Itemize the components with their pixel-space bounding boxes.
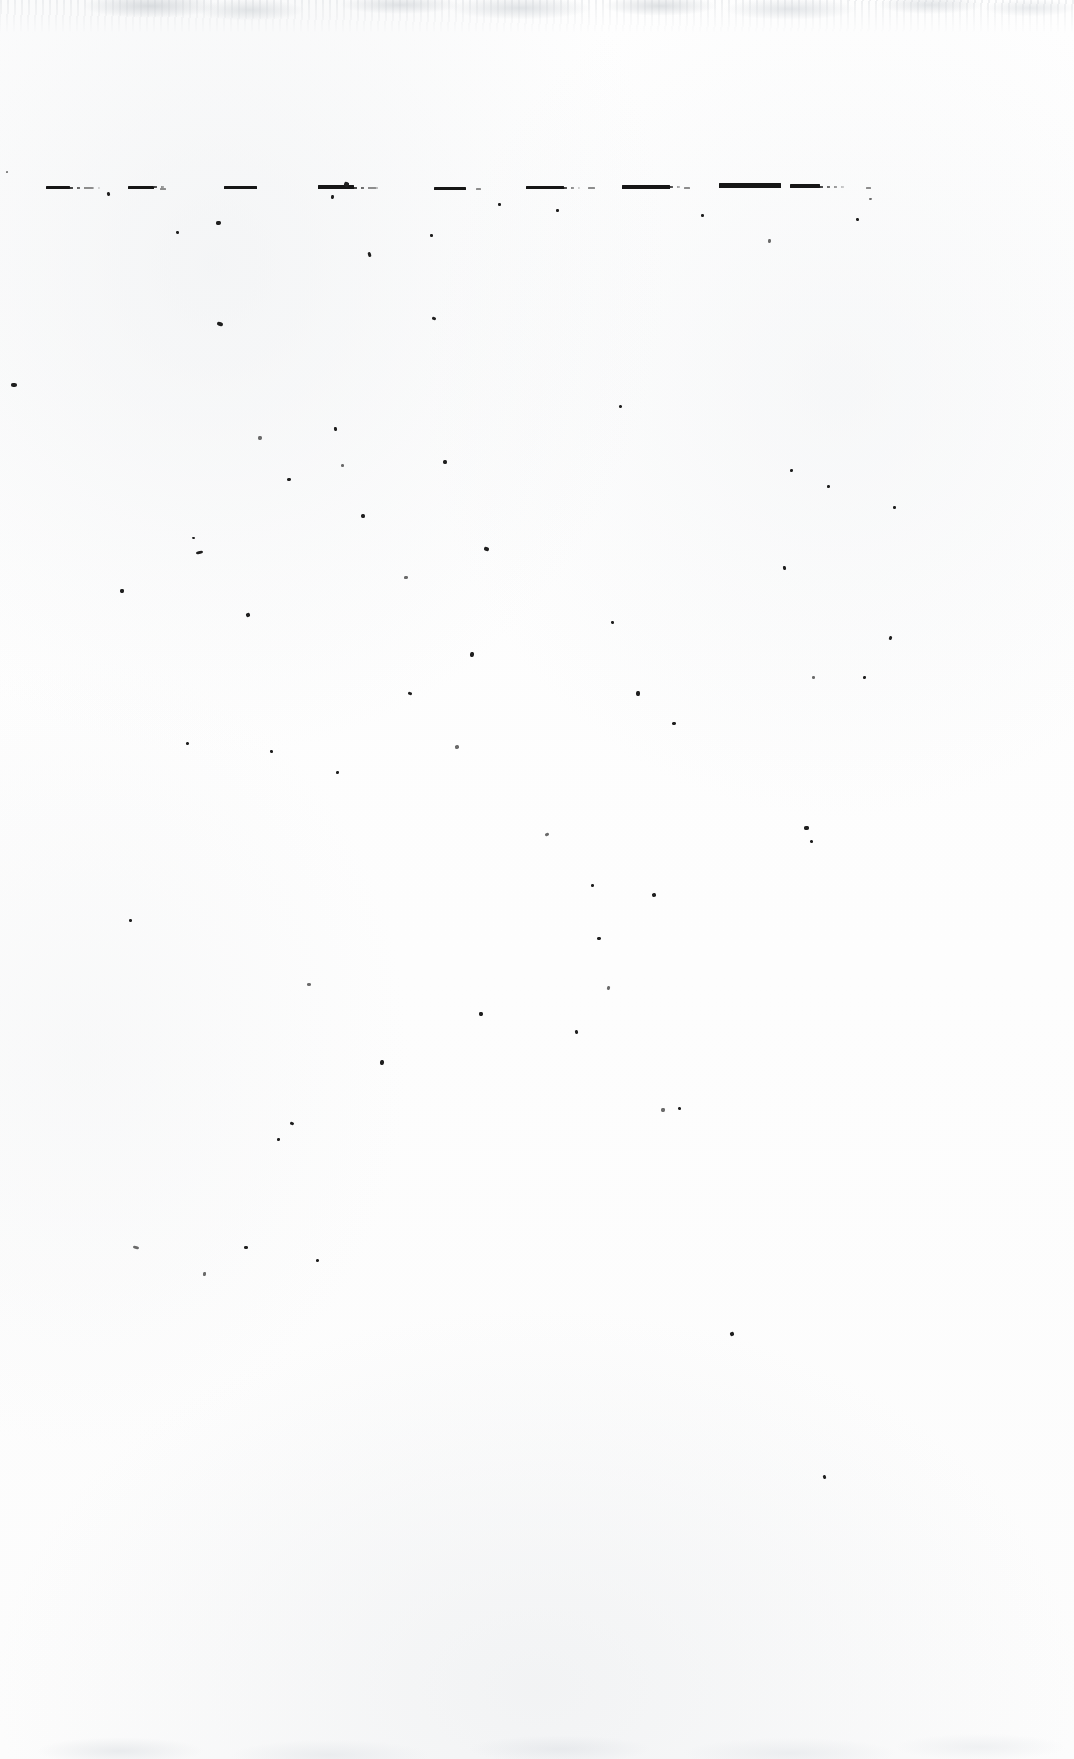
ink-speck: [341, 464, 344, 467]
ink-speck: [192, 537, 195, 539]
ink-speck: [258, 436, 262, 440]
ink-speck: [812, 676, 815, 679]
scanned-page: [0, 0, 1074, 1759]
ink-speck: [334, 427, 338, 431]
ink-speck: [804, 826, 809, 831]
ink-speck: [768, 239, 771, 243]
ink-speck: [636, 691, 640, 696]
ink-speck: [408, 692, 413, 696]
ink-speck: [893, 506, 896, 509]
ink-speck: [701, 214, 704, 217]
ink-speck: [498, 203, 501, 206]
ink-speck: [556, 209, 559, 212]
ink-speck: [11, 383, 17, 387]
ink-speck: [575, 1030, 579, 1035]
ink-speck: [244, 1246, 248, 1249]
ink-speck: [827, 485, 830, 488]
ink-speck: [430, 234, 433, 237]
ink-speck: [591, 884, 594, 887]
ink-speck: [783, 566, 787, 571]
ink-speck: [176, 231, 179, 234]
ink-speck: [307, 983, 311, 986]
paper-background: [0, 0, 1074, 1759]
ink-speck: [129, 919, 132, 922]
ink-speck: [107, 192, 111, 197]
ink-speck: [443, 460, 447, 464]
ink-speck: [869, 198, 872, 200]
ink-speck: [611, 621, 614, 624]
ink-speck: [361, 514, 365, 518]
